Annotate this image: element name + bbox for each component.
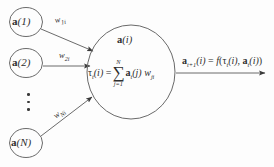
- cell-top-arg: (i): [122, 34, 132, 45]
- input-node-n-label: a(N): [11, 137, 31, 148]
- weight-1i-sub: 1i: [60, 18, 66, 26]
- ellipsis-dot: [27, 108, 30, 111]
- summation-lower-limit: j=1: [112, 81, 124, 87]
- formula-term-a-arg: (j): [132, 67, 141, 78]
- weight-label-1i: w1i: [54, 14, 66, 27]
- weight-2i-sub: 2i: [65, 55, 70, 62]
- ellipsis-dot: [27, 101, 30, 104]
- cell-top-label: a(i): [117, 35, 132, 46]
- output-equals: =: [208, 55, 214, 66]
- output-a-arg: (i): [196, 55, 205, 66]
- output-close-paren: ): [259, 55, 262, 66]
- ellipsis-dot: [27, 93, 30, 96]
- output-equation: at+1(i) = f(τt(i), at(i)): [182, 56, 262, 68]
- input-node-n-arg: (N): [17, 136, 32, 148]
- input-node-2-label: a(2): [12, 57, 30, 68]
- formula-tau-arg: (i): [94, 67, 103, 78]
- summation-group: N∑j=1: [112, 66, 124, 80]
- output-comma: ,: [238, 55, 241, 66]
- weight-label-2i: w2i: [59, 51, 70, 62]
- output-a-sub: t+1: [187, 61, 196, 68]
- output-tau-arg: (i): [228, 55, 237, 66]
- formula-equals: =: [106, 67, 112, 78]
- input-node-1-label: a(1): [12, 16, 30, 27]
- connection-arrow-n: [41, 97, 92, 136]
- neural-cell-diagram: a(1) a(2) a(N) w1i w2i wNi a(i) τt(i) =N…: [0, 0, 274, 167]
- connection-arrow-1: [41, 29, 93, 51]
- input-node-2-arg: (2): [18, 56, 31, 68]
- diagram-vector-layer: [0, 0, 274, 167]
- output-a2-arg: (i): [249, 55, 258, 66]
- vertical-ellipsis: [27, 93, 30, 111]
- summation-upper-limit: N: [112, 59, 124, 65]
- cell-formula: τt(i) =N∑j=1at(j) wji: [88, 66, 154, 80]
- input-node-1-arg: (1): [18, 15, 31, 27]
- formula-term-w-sub: ji: [151, 73, 155, 80]
- summation-sigma-icon: ∑: [112, 66, 124, 80]
- formula-term-w: w: [144, 67, 151, 78]
